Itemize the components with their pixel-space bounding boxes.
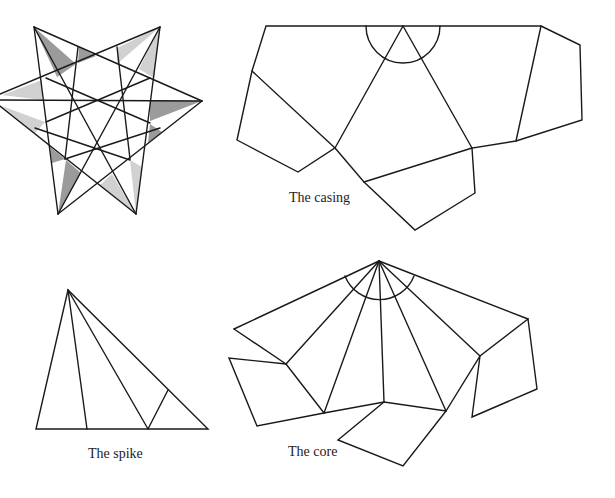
core-net [229, 261, 537, 466]
core-label: The core [288, 444, 337, 460]
star-shade [150, 101, 202, 121]
angle-arc [366, 26, 440, 63]
diagram-canvas [0, 0, 615, 498]
casing-label: The casing [289, 190, 350, 206]
spike-net [36, 290, 208, 429]
spike-label: The spike [88, 446, 143, 462]
star-shade [34, 27, 76, 77]
star-figure [0, 27, 202, 214]
